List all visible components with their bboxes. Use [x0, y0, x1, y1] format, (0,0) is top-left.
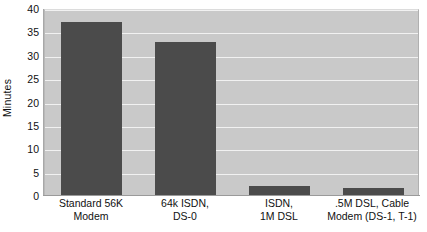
y-tick-label: 25 — [27, 74, 39, 84]
y-tick-label: 20 — [27, 98, 39, 108]
bar-chart: Minutes 40 35 30 25 20 15 10 5 0 Standar… — [0, 0, 427, 232]
y-tick-label: 10 — [27, 144, 39, 154]
x-axis-baseline — [43, 195, 420, 196]
bar — [155, 42, 216, 196]
y-axis-title: Minutes — [0, 0, 14, 196]
y-axis-line — [43, 9, 44, 196]
y-axis-title-text: Minutes — [1, 79, 13, 117]
y-tick-label: 15 — [27, 121, 39, 131]
plot-area — [44, 9, 419, 196]
y-tick-label: 30 — [27, 51, 39, 61]
x-axis-label: .5M DSL, CableModem (DS-1, T-1) — [311, 197, 427, 222]
y-tick-label: 40 — [27, 4, 39, 14]
y-tick-label: 5 — [33, 168, 39, 178]
x-axis-label-line: .5M DSL, Cable — [311, 197, 427, 210]
gridline — [45, 10, 418, 11]
bar — [61, 22, 122, 196]
x-axis-category-labels: Standard 56KModem64k ISDN,DS-0ISDN,1M DS… — [44, 197, 419, 232]
x-axis-label-line: Modem (DS-1, T-1) — [311, 210, 427, 223]
y-tick-label: 35 — [27, 27, 39, 37]
